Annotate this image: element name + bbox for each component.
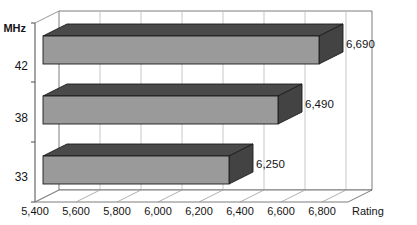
bar-42[interactable] xyxy=(43,24,343,64)
x-axis-tick-label-6: 6,600 xyxy=(267,205,295,217)
y-axis-tick-label-0: 42 xyxy=(15,59,29,73)
bar-33-front-face xyxy=(43,156,229,184)
x-axis-tick-label-0: 5,400 xyxy=(21,205,49,217)
bar-38-front-face xyxy=(43,96,278,124)
bar-33-value-label: 6,250 xyxy=(256,158,285,170)
bar-38[interactable] xyxy=(43,84,302,124)
bar-38-top-face xyxy=(43,84,302,96)
x-axis-title: Rating xyxy=(352,205,384,217)
bar-chart-3d: MHz 42 38 33 6,690 6,490 6,250 5,400 5,6… xyxy=(0,0,417,225)
bar-42-top-face xyxy=(43,24,343,36)
y-axis-title: MHz xyxy=(3,22,26,34)
bar-33[interactable] xyxy=(43,144,253,184)
bar-42-front-face xyxy=(43,36,319,64)
x-axis-tick-label-5: 6,400 xyxy=(226,205,254,217)
x-axis-tick-label-7: 6,800 xyxy=(308,205,336,217)
x-axis-tick-label-2: 5,800 xyxy=(103,205,131,217)
y-axis-tick-label-1: 38 xyxy=(15,111,29,125)
x-axis-tick-label-3: 6,000 xyxy=(144,205,172,217)
plot-floor xyxy=(35,190,372,202)
x-axis-tick-label-1: 5,600 xyxy=(62,205,90,217)
bar-33-top-face xyxy=(43,144,253,156)
x-axis-tick-label-4: 6,200 xyxy=(185,205,213,217)
chart-container: MHz 42 38 33 6,690 6,490 6,250 5,400 5,6… xyxy=(0,0,417,225)
bar-38-value-label: 6,490 xyxy=(305,98,334,110)
y-axis-tick-label-2: 33 xyxy=(15,170,29,184)
bar-42-value-label: 6,690 xyxy=(346,38,375,50)
